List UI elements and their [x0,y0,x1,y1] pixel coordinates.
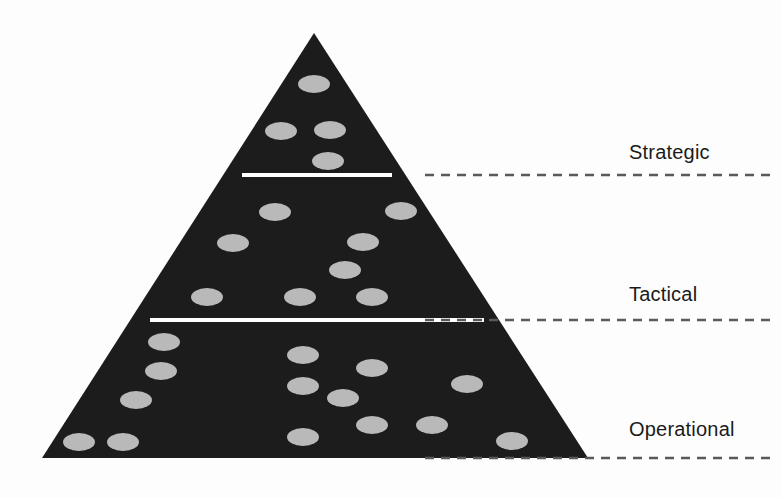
dot-operational-10 [416,416,448,434]
dot-tactical-2 [385,202,417,220]
tier-label-operational: Operational [629,418,735,441]
dot-tactical-5 [329,261,361,279]
dot-operational-3 [145,362,177,380]
dot-operational-6 [451,375,483,393]
dot-strategic-4 [312,152,344,170]
dot-operational-12 [107,433,139,451]
dot-operational-1 [148,333,180,351]
dot-tactical-7 [284,288,316,306]
dot-operational-14 [496,432,528,450]
dot-tactical-6 [191,288,223,306]
dot-tactical-4 [347,233,379,251]
tier-label-strategic: Strategic [629,141,710,164]
dot-tactical-8 [356,288,388,306]
dot-operational-2 [287,346,319,364]
dot-operational-13 [287,428,319,446]
dot-tactical-3 [217,234,249,252]
dot-strategic-3 [314,121,346,139]
dot-operational-11 [63,433,95,451]
dot-operational-4 [356,359,388,377]
dot-tactical-1 [259,203,291,221]
dot-strategic-2 [265,122,297,140]
dot-operational-7 [120,391,152,409]
tier-label-tactical: Tactical [629,283,697,306]
dot-strategic-1 [298,75,330,93]
pyramid-diagram-canvas: Strategic Tactical Operational [0,0,782,498]
dot-operational-5 [287,377,319,395]
dot-operational-8 [327,389,359,407]
dot-operational-9 [356,416,388,434]
